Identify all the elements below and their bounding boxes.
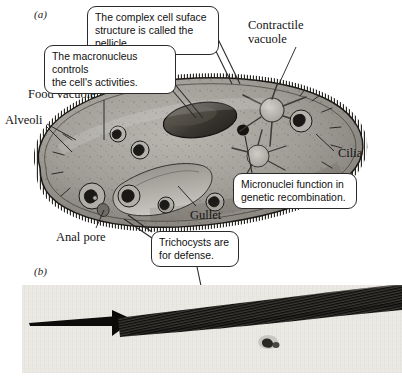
figure-paramecium: (a) Contractile vacuole Food vacuole Alv… bbox=[0, 0, 402, 383]
callout-trichocysts-line1: Trichocysts are bbox=[159, 236, 232, 249]
callout-trichocysts[interactable]: Trichocysts are for defense. bbox=[151, 231, 239, 267]
callout-trichocysts-line2: for defense. bbox=[159, 249, 232, 262]
callout-micronuclei-line2: genetic recombination. bbox=[241, 191, 350, 204]
callout-pellicle-line1: The complex cell suface bbox=[95, 11, 212, 24]
callout-macronucleus-line1: The macronucleus controls bbox=[52, 50, 169, 76]
callout-micronuclei-line1: Micronuclei function in bbox=[241, 178, 350, 191]
callout-macronucleus[interactable]: The macronucleus controls the cell's act… bbox=[44, 45, 176, 94]
callout-macronucleus-line2: the cell's activities. bbox=[52, 76, 169, 89]
callout-micronuclei[interactable]: Micronuclei function in genetic recombin… bbox=[233, 173, 357, 209]
